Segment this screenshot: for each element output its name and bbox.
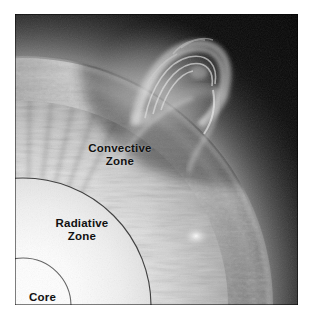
film-grain <box>15 14 298 305</box>
solar-structure-figure: Convective Zone Radiative Zone Core <box>0 0 312 320</box>
solar-illustration <box>15 14 298 305</box>
solar-photograph-plate: Convective Zone Radiative Zone Core <box>15 14 298 305</box>
